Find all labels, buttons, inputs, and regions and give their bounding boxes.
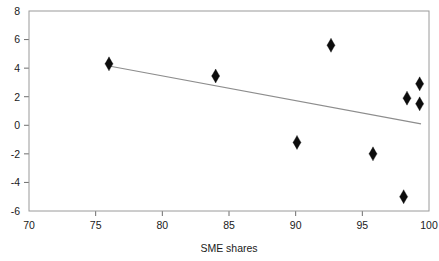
y-tick-label: 4	[14, 62, 20, 74]
y-tick-label: 8	[14, 5, 20, 17]
x-tick-label: 90	[290, 219, 302, 231]
data-point-marker	[212, 69, 220, 83]
y-tick-label: -4	[11, 176, 20, 188]
data-point-marker	[327, 38, 335, 52]
y-tick-label: 2	[14, 91, 20, 103]
data-point-marker	[400, 190, 408, 204]
data-point-marker	[416, 97, 424, 111]
y-axis-tick-group: -6-4-202468	[11, 5, 29, 217]
data-point-marker	[403, 91, 411, 105]
y-tick-label: 0	[14, 119, 20, 131]
plot-frame	[29, 11, 429, 211]
x-tick-label: 80	[156, 219, 168, 231]
x-tick-label: 95	[356, 219, 368, 231]
scatter-chart-figure: -6-4-202468 707580859095100 SME shares	[0, 0, 439, 261]
data-point-marker	[105, 57, 113, 71]
y-tick-label: 6	[14, 33, 20, 45]
x-tick-label: 85	[223, 219, 235, 231]
data-point-marker	[293, 135, 301, 149]
data-point-marker	[416, 77, 424, 91]
data-point-group	[105, 38, 424, 203]
regression-line	[109, 66, 421, 124]
x-tick-label: 75	[90, 219, 102, 231]
chart-canvas: -6-4-202468 707580859095100 SME shares	[0, 0, 439, 261]
x-axis-title: SME shares	[200, 242, 257, 254]
data-point-marker	[369, 147, 377, 161]
x-axis-tick-group: 707580859095100	[23, 211, 438, 231]
y-tick-label: -6	[11, 205, 20, 217]
y-tick-label: -2	[11, 148, 20, 160]
x-tick-label: 100	[420, 219, 438, 231]
x-tick-label: 70	[23, 219, 35, 231]
